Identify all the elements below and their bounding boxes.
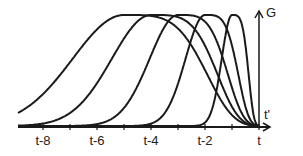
x-tick-label: t-4	[143, 133, 158, 148]
x-tick-label: t-6	[89, 133, 104, 148]
kernel-diagram: G t' t-8t-6t-4t-2t	[0, 0, 303, 156]
x-tick-label: t-8	[35, 133, 50, 148]
kernel-curve	[18, 15, 259, 126]
x-tick-label: t-2	[197, 133, 212, 148]
x-tick-label: t	[257, 133, 261, 148]
kernel-curve	[18, 15, 259, 126]
curves	[18, 15, 259, 126]
x-tick-labels: t-8t-6t-4t-2t	[35, 133, 261, 148]
kernel-curve	[18, 15, 259, 126]
x-axis-label: t'	[264, 107, 270, 122]
kernel-curve	[18, 15, 259, 126]
y-axis-label: G	[266, 5, 276, 20]
kernel-curve	[18, 15, 259, 126]
